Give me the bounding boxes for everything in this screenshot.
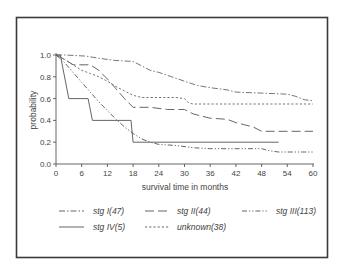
x-tick-label: 42	[231, 169, 240, 178]
x-tick-label: 48	[257, 169, 266, 178]
legend-item: stg II(44)	[145, 206, 211, 216]
x-tick-label: 54	[283, 169, 292, 178]
x-tick-label: 24	[154, 169, 163, 178]
chart-frame	[17, 18, 328, 258]
x-tick-label: 30	[180, 169, 189, 178]
survival-curves	[56, 55, 313, 152]
curve-stg-i-47	[56, 55, 313, 101]
legend-label: unknown(38)	[177, 222, 226, 232]
x-tick-label: 18	[129, 169, 138, 178]
x-tick-label: 60	[309, 169, 318, 178]
y-tick-label: 0.6	[40, 95, 52, 104]
y-axis-label: probability	[28, 90, 38, 129]
x-axis-label: survival time in months	[142, 182, 228, 192]
x-tick-label: 36	[206, 169, 215, 178]
legend-label: stg II(44)	[177, 206, 211, 216]
y-tick-label: 0.0	[40, 160, 52, 169]
x-tick-label: 6	[79, 169, 84, 178]
x-tick-label: 12	[103, 169, 112, 178]
legend-item: unknown(38)	[145, 222, 226, 232]
legend-label: stg III(113)	[276, 206, 316, 216]
legend-item: stg I(47)	[59, 206, 124, 216]
x-tick-label: 0	[54, 169, 59, 178]
y-tick-label: 0.2	[40, 138, 52, 147]
legend-item: stg III(113)	[242, 206, 316, 216]
legend-label: stg I(47)	[93, 206, 124, 216]
curve-stg-iv-5	[56, 55, 279, 142]
legend-label: stg IV(5)	[93, 222, 125, 232]
legend-item: stg IV(5)	[59, 222, 125, 232]
y-tick-label: 0.8	[40, 73, 52, 82]
curve-stg-iii-113	[56, 55, 313, 152]
y-tick-label: 0.4	[40, 116, 52, 125]
curve-stg-ii-44	[56, 55, 313, 131]
survival-chart: 0.00.20.40.60.81.006121824303642485460 p…	[0, 0, 337, 273]
y-tick-label: 1.0	[40, 51, 52, 60]
legend: stg I(47)stg II(44)stg III(113)stg IV(5)…	[59, 206, 316, 232]
